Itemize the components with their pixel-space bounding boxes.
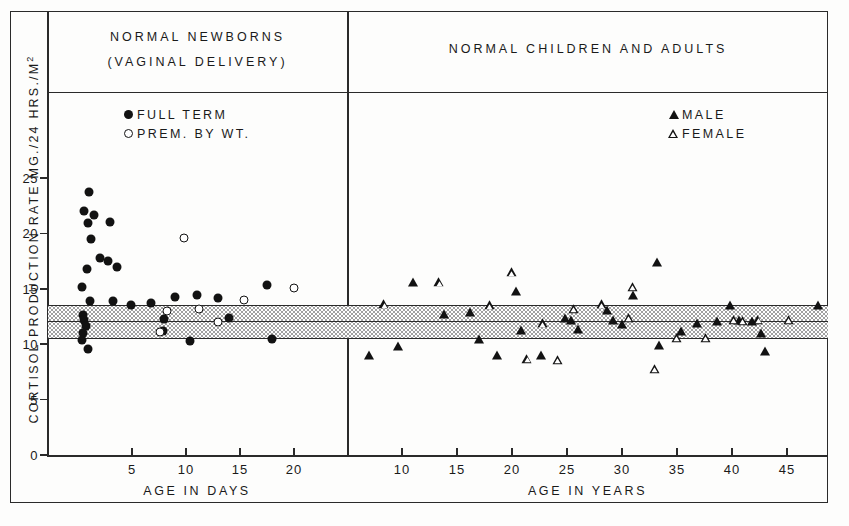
legend-label-male: MALE [682,108,726,122]
y-tick-label: 20 [8,226,38,241]
filled-circle-icon [120,110,137,119]
data-point-filled-triangle [511,287,521,296]
x-tick-mark [731,448,733,456]
data-point-filled-circle [90,210,99,219]
open-circle-icon [120,129,137,138]
right-panel-legend: MALE FEMALE [665,105,746,143]
data-point-open-triangle [379,300,390,310]
data-point-open-triangle [753,315,764,325]
legend-label-full-term: FULL TERM [137,108,227,122]
data-point-filled-circle [171,292,180,301]
data-point-filled-circle [84,188,93,197]
data-point-filled-triangle [628,291,638,300]
data-point-filled-circle [82,264,91,273]
data-point-filled-circle [80,207,89,216]
data-point-filled-circle [78,335,87,344]
x-tick-label: 5 [128,462,136,477]
data-point-filled-triangle [566,315,576,324]
data-point-filled-circle [85,296,94,305]
data-point-filled-triangle [408,278,418,287]
figure-canvas: CORTISOL PRODUCTION RATE MG./24 HRS./M2 … [0,0,849,526]
data-point-filled-triangle [813,301,823,310]
x-axis-title-left: AGE IN DAYS [143,484,251,498]
data-point-open-triangle [700,333,711,343]
data-point-filled-triangle [439,310,449,319]
data-point-filled-triangle [654,341,664,350]
left-panel-title-line1: NORMAL NEWBORNS [49,30,346,44]
data-point-open-triangle [623,313,634,323]
data-point-open-triangle [738,316,749,326]
data-point-filled-circle [78,282,87,291]
x-tick-label: 35 [669,462,685,477]
data-point-open-triangle [507,267,518,277]
data-point-open-triangle [553,355,564,365]
data-point-filled-circle [160,314,169,323]
data-point-filled-triangle [393,342,403,351]
y-tick-label: 15 [8,281,38,296]
data-point-filled-circle [186,336,195,345]
data-point-filled-circle [108,296,117,305]
y-tick-mark [40,233,48,235]
legend-label-female: FEMALE [682,127,746,141]
x-tick-mark [786,448,788,456]
x-tick-mark [131,448,133,456]
y-tick-mark [40,288,48,290]
data-point-open-triangle [537,318,548,328]
figure-frame [10,11,828,503]
y-tick-mark [40,399,48,401]
data-point-filled-circle [192,291,201,300]
data-point-filled-circle [83,219,92,228]
x-tick-label: 20 [286,462,302,477]
legend-item-premature: PREM. BY WT. [120,124,250,143]
y-tick-label: 0 [8,448,38,463]
data-point-open-triangle [485,301,496,311]
data-point-filled-triangle [536,351,546,360]
x-tick-label: 10 [394,462,410,477]
x-tick-label: 40 [724,462,740,477]
data-point-open-triangle [784,315,795,325]
x-tick-label: 15 [449,462,465,477]
legend-item-female: FEMALE [665,124,746,143]
data-point-open-circle [179,233,188,242]
x-tick-label: 15 [232,462,248,477]
legend-item-male: MALE [665,105,746,124]
data-point-filled-circle [106,218,115,227]
data-point-open-triangle [650,364,661,374]
data-point-filled-triangle [760,346,770,355]
x-tick-label: 30 [614,462,630,477]
data-point-filled-circle [225,313,234,322]
x-tick-mark [456,448,458,456]
x-axis-title-right: AGE IN YEARS [528,484,647,498]
x-tick-mark [566,448,568,456]
y-tick-label: 25 [8,171,38,186]
legend-label-premature: PREM. BY WT. [137,127,250,141]
data-point-filled-triangle [573,324,583,333]
data-point-filled-circle [95,253,104,262]
header-separator [47,92,828,93]
y-axis-title-text: CORTISOL PRODUCTION RATE MG./24 HRS./M [27,62,41,424]
y-tick-label: 10 [8,337,38,352]
data-point-filled-triangle [692,319,702,328]
data-point-filled-circle [263,281,272,290]
data-point-open-triangle [568,304,579,314]
x-tick-mark [676,448,678,456]
data-point-filled-triangle [725,301,735,310]
y-tick-mark [40,454,48,456]
data-point-open-circle [156,328,165,337]
data-point-filled-circle [83,344,92,353]
y-axis-title-exponent: 2 [25,57,35,62]
y-tick-mark [40,177,48,179]
data-point-open-triangle [597,300,608,310]
data-point-open-circle [194,304,203,313]
data-point-filled-triangle [712,316,722,325]
x-tick-mark [401,448,403,456]
x-tick-mark [293,448,295,456]
data-point-open-circle [290,283,299,292]
data-point-open-circle [214,318,223,327]
open-triangle-icon [665,129,682,139]
right-panel-title: NORMAL CHILDREN AND ADULTS [349,42,827,56]
data-point-filled-circle [112,262,121,271]
data-point-filled-triangle [516,325,526,334]
x-tick-mark [511,448,513,456]
panel-divider [347,11,349,456]
